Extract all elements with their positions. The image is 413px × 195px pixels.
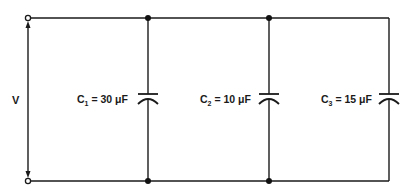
capacitor-c2-label: C2 = 10 μF [200, 93, 251, 107]
capacitor-c3-label: C3 = 15 μF [321, 93, 372, 107]
bottom-terminal [25, 178, 30, 183]
junction-node-bottom-1 [145, 178, 151, 184]
parallel-capacitor-circuit: V C1 = 30 μF C2 = 10 μF C3 = 15 μF [0, 0, 413, 195]
top-terminal [25, 15, 30, 20]
capacitor-c2 [259, 15, 279, 184]
capacitor-c1 [138, 15, 158, 184]
capacitor-c1-label: C1 = 30 μF [77, 93, 128, 107]
capacitor-c3 [379, 18, 399, 181]
arrowhead-down-icon [26, 171, 31, 178]
junction-node-top-1 [145, 15, 151, 21]
junction-node-bottom-2 [266, 178, 272, 184]
arrowhead-up-icon [26, 21, 31, 28]
junction-node-top-2 [266, 15, 272, 21]
voltage-label: V [12, 94, 20, 106]
voltage-arrow [26, 21, 31, 178]
